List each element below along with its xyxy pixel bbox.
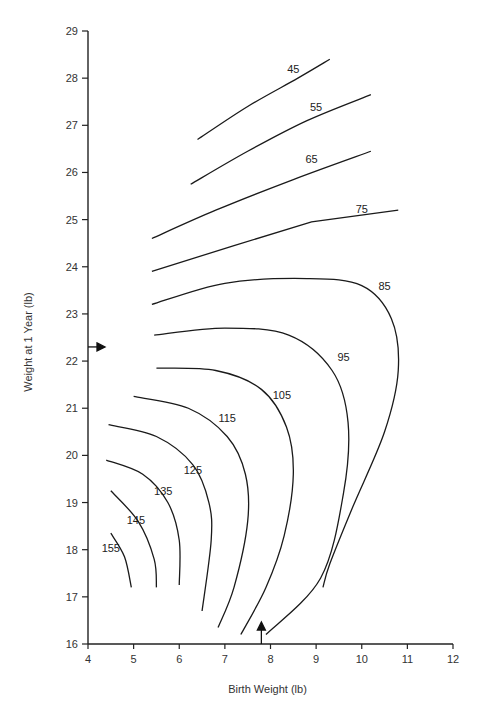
- x-axis-ticks: 456789101112: [85, 644, 459, 665]
- contour-line-125: [109, 425, 212, 611]
- y-tick-label: 29: [66, 25, 78, 37]
- contour-label-145: 145: [127, 514, 145, 526]
- contour-line-145: [111, 491, 157, 588]
- x-tick-label: 8: [267, 653, 273, 665]
- y-tick-label: 18: [66, 544, 78, 556]
- x-tick-label: 5: [131, 653, 137, 665]
- x-tick-label: 6: [176, 653, 182, 665]
- contour-line-65: [152, 151, 371, 238]
- contour-label-45: 45: [287, 63, 299, 75]
- contour-label-115: 115: [218, 412, 236, 424]
- y-tick-label: 25: [66, 214, 78, 226]
- y-tick-label: 21: [66, 402, 78, 414]
- x-tick-label: 7: [222, 653, 228, 665]
- y-tick-label: 22: [66, 355, 78, 367]
- x-tick-label: 4: [85, 653, 91, 665]
- contour-label-125: 125: [184, 464, 202, 476]
- arrow-right-icon: [97, 343, 105, 351]
- contour-line-95: [154, 328, 349, 634]
- x-tick-label: 9: [313, 653, 319, 665]
- reference-markers: [88, 343, 265, 644]
- y-tick-label: 17: [66, 591, 78, 603]
- x-axis-title: Birth Weight (lb): [228, 683, 307, 695]
- contour-line-45: [198, 59, 330, 139]
- contour-label-135: 135: [154, 485, 172, 497]
- y-tick-label: 24: [66, 261, 78, 273]
- contour-line-85: [152, 278, 399, 587]
- contour-line-75: [152, 210, 398, 271]
- contour-label-85: 85: [378, 280, 390, 292]
- contour-label-155: 155: [102, 542, 120, 554]
- y-axis-title: Weight at 1 Year (lb): [22, 292, 34, 391]
- contour-label-55: 55: [310, 101, 322, 113]
- contour-label-105: 105: [273, 389, 291, 401]
- contour-label-65: 65: [305, 153, 317, 165]
- contour-line-115: [134, 396, 249, 627]
- axes: 1617181920212223242526272829 45678910111…: [66, 25, 459, 665]
- contour-line-105: [156, 368, 293, 634]
- contour-line-55: [191, 95, 371, 185]
- y-tick-label: 23: [66, 308, 78, 320]
- y-axis-ticks: 1617181920212223242526272829: [66, 25, 88, 650]
- y-tick-label: 19: [66, 497, 78, 509]
- contour-label-95: 95: [337, 351, 349, 363]
- y-tick-label: 27: [66, 119, 78, 131]
- contour-lines: [106, 59, 398, 634]
- x-tick-label: 12: [447, 653, 459, 665]
- x-tick-label: 10: [356, 653, 368, 665]
- arrow-up-icon: [257, 622, 265, 630]
- contour-label-75: 75: [356, 203, 368, 215]
- x-tick-label: 11: [402, 653, 413, 665]
- y-tick-label: 20: [66, 449, 78, 461]
- contour-chart: 455565758595105115125135145155 161718192…: [0, 0, 484, 716]
- y-tick-label: 26: [66, 166, 78, 178]
- y-tick-label: 28: [66, 72, 78, 84]
- y-tick-label: 16: [66, 638, 78, 650]
